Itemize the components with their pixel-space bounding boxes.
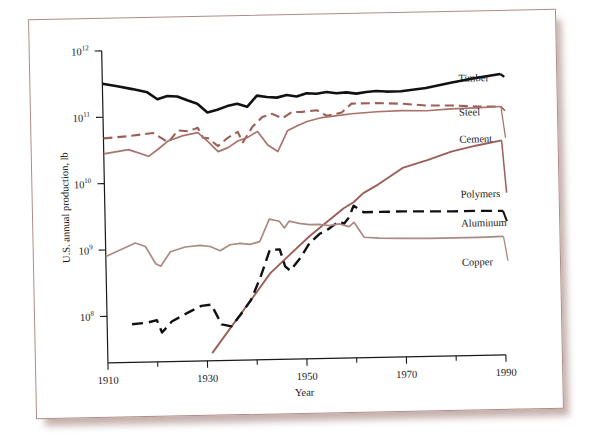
x-tick-label: 1970 — [396, 369, 417, 380]
series-label-copper: Copper — [462, 256, 494, 268]
y-tick-label: 108 — [80, 310, 95, 323]
y-tick-label: 1012 — [71, 44, 89, 57]
series-label-polymers: Polymers — [461, 188, 501, 200]
series-leader-polymers — [502, 140, 507, 193]
series-line-polymers — [208, 140, 506, 353]
series-lines — [102, 74, 505, 355]
series-leader-timber — [500, 74, 504, 77]
book-page-card: 108109101010111012 19101930195019701990 … — [28, 9, 564, 420]
x-tick-label: 1950 — [297, 371, 318, 382]
y-tick-label: 1011 — [73, 111, 91, 124]
x-tick-label: 1910 — [98, 375, 119, 386]
y-axis-title: U.S. annual production, lb — [59, 152, 72, 263]
series-label-timber: Timber — [458, 72, 489, 84]
series-label-cement: Cement — [459, 133, 492, 145]
chart-plot-area: 108109101010111012 19101930195019701990 … — [29, 10, 565, 421]
series-label-aluminum: Aluminum — [461, 217, 507, 229]
series-line-cement — [103, 107, 502, 158]
x-tick-label: 1930 — [197, 373, 218, 384]
x-axis-title: Year — [295, 387, 315, 398]
x-tick-label: 1990 — [496, 367, 517, 378]
series-leader-cement — [501, 106, 506, 137]
series-label-leaders — [500, 74, 508, 261]
series-label-steel: Steel — [459, 106, 480, 117]
series-line-aluminum — [130, 203, 506, 333]
screenshot-root: 108109101010111012 19101930195019701990 … — [0, 0, 596, 438]
y-tick-label: 1010 — [74, 177, 92, 190]
x-axis-ticks: 19101930195019701990 — [97, 355, 516, 386]
y-axis-ticks: 108109101010111012 — [71, 44, 107, 323]
series-line-timber — [102, 74, 501, 115]
series-leader-copper — [503, 236, 507, 261]
y-tick-label: 109 — [79, 243, 94, 256]
production-line-chart: 108109101010111012 19101930195019701990 … — [29, 10, 565, 421]
